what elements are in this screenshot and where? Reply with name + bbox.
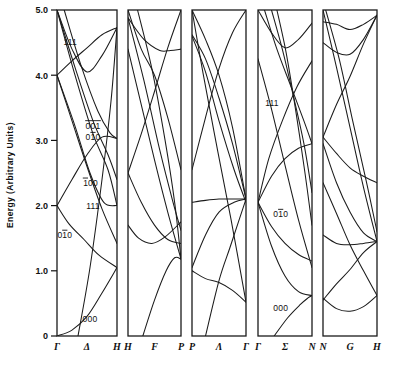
band-index-label: 001 (86, 121, 101, 131)
band-curves (258, 10, 312, 336)
band-curves (57, 10, 117, 336)
x-axis-symmetry-label: F (150, 341, 158, 352)
band-structure-figure: Energy (Arbitrary Units) 5.04.03.02.01.0… (0, 0, 412, 368)
panel-gamma-delta-h (57, 10, 117, 336)
band-index-label: 111 (265, 98, 279, 108)
band-curve (57, 268, 117, 336)
x-axis-symmetry-label: Γ (53, 341, 61, 352)
band-index-label: 010 (57, 230, 72, 240)
panel-gamma-sigma-n (258, 10, 312, 336)
band-curve (326, 10, 377, 232)
y-axis-tick-label: 1.0 (35, 266, 48, 276)
band-curve (274, 296, 312, 336)
x-axis-symmetry-label: Γ (254, 341, 262, 352)
x-axis-symmetry-label: Λ (215, 341, 223, 352)
band-index-label: 000 (273, 303, 288, 313)
y-axis-tick-label: 0 (43, 331, 48, 341)
band-curve (323, 241, 377, 300)
panel-frame (323, 10, 377, 336)
band-index-label: 100 (83, 178, 98, 188)
panel-h-f-p (128, 10, 181, 336)
panel-frame (128, 10, 181, 336)
band-curve (143, 257, 181, 336)
x-axis-symmetry-label: H (112, 341, 122, 352)
band-curves (128, 10, 181, 336)
band-curve (323, 235, 377, 245)
band-curve (323, 10, 377, 241)
band-index-label: 000 (83, 314, 98, 324)
x-axis-symmetry-label: Δ (83, 341, 90, 352)
y-axis-tick-label: 4.0 (35, 71, 48, 81)
band-curve (323, 296, 377, 312)
band-index-label: 111 (86, 201, 100, 211)
y-axis-tick-label: 3.0 (35, 136, 48, 146)
band-curve (138, 10, 181, 259)
x-axis-symmetry-label: G (346, 341, 354, 352)
panel-p-lambda-gamma (192, 10, 246, 336)
band-curve (258, 144, 312, 203)
band-curves (323, 10, 377, 311)
band-index-label: 111 (63, 37, 77, 47)
band-curve (277, 10, 312, 225)
x-axis-symmetry-label: P (189, 341, 196, 352)
x-axis-symmetry-label: H (123, 341, 133, 352)
band-curve (258, 61, 312, 202)
band-curve (192, 36, 246, 202)
y-axis-title-group: Energy (Arbitrary Units) (5, 122, 15, 228)
y-axis-ticks-group: 5.04.03.02.01.00 (35, 5, 57, 341)
x-axis-symmetry-label: Γ (242, 341, 250, 352)
band-curve (192, 10, 246, 170)
x-axis-symmetry-label: Σ (281, 341, 289, 352)
y-axis-title: Energy (Arbitrary Units) (5, 122, 15, 228)
y-axis-tick-label: 5.0 (35, 5, 48, 15)
symmetry-point-labels-group: ΓΔHHFPPΛΓΓΣNNGH (53, 341, 382, 352)
band-annotations-group: 111001010100111010000111010000 (57, 37, 288, 324)
band-curve (192, 10, 246, 199)
band-curves (192, 10, 246, 336)
x-axis-symmetry-label: N (318, 341, 327, 352)
panel-n-g-h (323, 10, 377, 336)
x-axis-symmetry-label: P (178, 341, 185, 352)
band-curve (192, 271, 246, 302)
band-curve (323, 137, 377, 183)
band-curve (264, 10, 312, 144)
band-curve (323, 183, 377, 296)
band-structure-plot: Energy (Arbitrary Units) 5.04.03.02.01.0… (0, 0, 412, 368)
x-axis-symmetry-label: H (372, 341, 382, 352)
y-axis-tick-label: 2.0 (35, 201, 48, 211)
band-index-label: 010 (273, 209, 288, 219)
x-axis-symmetry-label: N (307, 341, 316, 352)
band-curve (323, 15, 377, 137)
band-index-label: 010 (86, 132, 101, 142)
panels-group (57, 10, 377, 336)
